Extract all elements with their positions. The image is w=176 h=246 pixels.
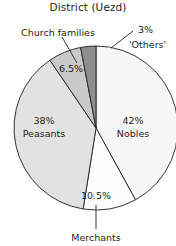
- label-peasants-percent: 38%: [16, 115, 72, 126]
- label-merchants-percent: 10.5%: [66, 190, 126, 201]
- label-others-percent: 3%: [138, 24, 153, 35]
- label-nobles-percent: 42%: [108, 115, 158, 126]
- label-others-name: 'Others': [129, 39, 166, 50]
- label-peasants-name: Peasants: [10, 128, 78, 139]
- label-nobles-name: Nobles: [106, 128, 160, 139]
- label-merchants-name: Merchants: [56, 232, 136, 243]
- pie-chart: District (Uezd) Church families 6.5% 3% …: [0, 0, 176, 246]
- label-church-percent: 6.5%: [59, 63, 83, 74]
- label-church-families: Church families: [4, 27, 112, 38]
